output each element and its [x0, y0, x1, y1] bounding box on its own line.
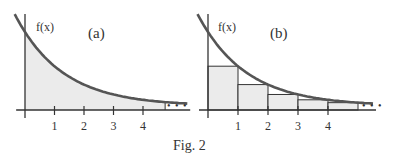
figure: 1234 f(x) (a) • • • 1234 f(x) (b) • • • … — [0, 0, 393, 159]
ellipsis: • • • — [167, 100, 188, 111]
x-tick-label: 1 — [235, 119, 241, 133]
ellipsis: • • • — [362, 100, 383, 111]
x-tick-label: 1 — [52, 119, 58, 133]
riemann-rectangle — [268, 94, 298, 110]
area-under-curve — [25, 32, 165, 110]
panel-b: 1234 f(x) (b) • • • — [198, 14, 383, 133]
x-tick-label: 4 — [325, 119, 331, 133]
x-tick-label: 2 — [81, 119, 87, 133]
riemann-rectangle — [238, 85, 268, 110]
function-label: f(x) — [218, 20, 236, 34]
x-tick-label: 4 — [140, 119, 146, 133]
figure-caption: Fig. 2 — [173, 138, 206, 153]
panel-label: (a) — [88, 25, 105, 42]
panel-label: (b) — [270, 25, 288, 42]
x-tick-label: 3 — [295, 119, 301, 133]
x-tick-label: 2 — [265, 119, 271, 133]
x-tick-label: 3 — [111, 119, 117, 133]
riemann-rectangle — [328, 103, 358, 110]
function-label: f(x) — [36, 20, 54, 34]
riemann-rectangle — [208, 66, 238, 110]
riemann-rectangle — [298, 100, 328, 110]
panel-a: 1234 f(x) (a) • • • — [15, 14, 191, 133]
